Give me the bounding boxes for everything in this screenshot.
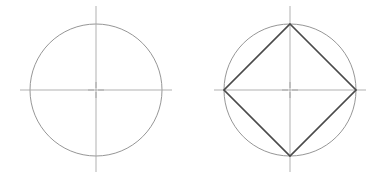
geometric-construction-canvas: [0, 0, 384, 177]
circle-with-centerlines: [20, 6, 172, 172]
circle-with-inscribed-square: [214, 6, 366, 172]
